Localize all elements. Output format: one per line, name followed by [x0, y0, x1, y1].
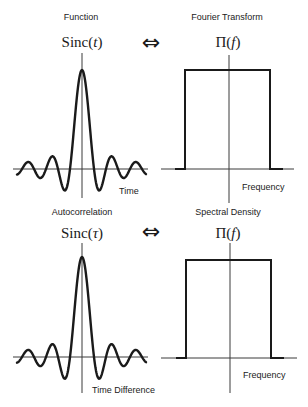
function-caption: Function	[64, 12, 99, 22]
sinc-t-formula: Sinc(t)	[62, 34, 103, 51]
frequency-axis-label: Frequency	[242, 182, 285, 192]
time-axis-label: Time	[119, 186, 139, 196]
fourier-transform-caption: Fourier Transform	[191, 12, 263, 22]
fourier-pairs-figure: Function Sinc(t) Time ⇔ Fourier Transfor…	[0, 0, 308, 407]
spectral-density-caption: Spectral Density	[195, 207, 261, 217]
autocorrelation-caption: Autocorrelation	[52, 207, 113, 217]
bottom-right-panel: Spectral Density Π(f) Frequency	[161, 207, 297, 393]
bottom-left-panel: Autocorrelation Sinc(τ) Time Difference	[13, 207, 155, 395]
frequency-axis-label: Frequency	[243, 370, 286, 380]
transform-pair-arrow-icon: ⇔	[142, 219, 160, 244]
sinc-tau-formula: Sinc(τ)	[61, 225, 103, 242]
time-difference-axis-label: Time Difference	[92, 385, 155, 395]
pi-f-formula: Π(f)	[215, 34, 240, 51]
top-left-panel: Function Sinc(t) Time	[13, 12, 148, 198]
pi-f-formula: Π(f)	[215, 225, 240, 242]
top-right-panel: Fourier Transform Π(f) Frequency	[161, 12, 294, 203]
transform-pair-arrow-icon: ⇔	[142, 30, 160, 55]
